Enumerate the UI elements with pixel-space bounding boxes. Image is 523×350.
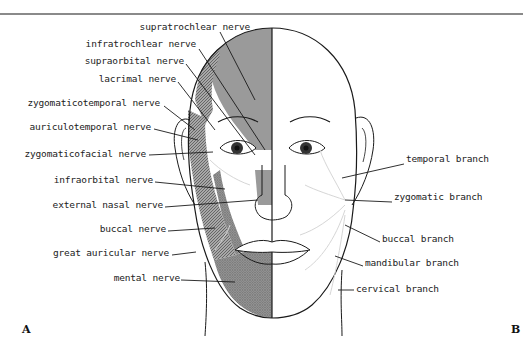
label-zygomaticofacial-nerve: zygomaticofacial nerve	[25, 148, 146, 159]
label-buccal-branch: buccal branch	[382, 233, 454, 244]
right-leader-lines	[335, 164, 404, 290]
label-mental-nerve: mental nerve	[114, 272, 180, 283]
label-cervical-branch: cervical branch	[356, 283, 439, 294]
label-zygomaticotemporal-nerve: zygomaticotemporal nerve	[28, 97, 160, 108]
label-buccal-nerve: buccal nerve	[100, 223, 166, 234]
label-temporal-branch: temporal branch	[406, 153, 489, 164]
label-lacrimal-nerve: lacrimal nerve	[99, 73, 176, 84]
panel-label-b: B	[511, 323, 520, 336]
label-supratrochlear-nerve: supratrochlear nerve	[140, 21, 250, 32]
label-zygomatic-branch: zygomatic branch	[394, 191, 482, 202]
label-infratrochlear-nerve: infratrochlear nerve	[86, 38, 196, 49]
label-supraorbital-nerve: supraorbital nerve	[85, 55, 184, 66]
label-mandibular-branch: mandibular branch	[365, 257, 459, 268]
label-auriculotemporal-nerve: auriculotemporal nerve	[30, 121, 151, 132]
label-external-nasal-nerve: external nasal nerve	[53, 199, 163, 210]
label-infraorbital-nerve: infraorbital nerve	[54, 174, 153, 185]
label-great-auricular-nerve: great auricular nerve	[53, 247, 169, 258]
panel-label-a: A	[22, 323, 31, 336]
